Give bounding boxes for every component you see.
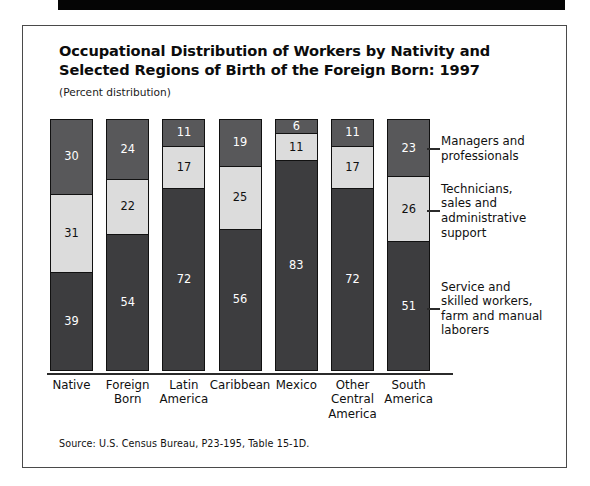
bar-value-label: 11 xyxy=(289,142,304,153)
bar-other-central-america[interactable]: 111772 xyxy=(331,119,374,373)
bar-segment[interactable]: 26 xyxy=(387,176,430,242)
legend-text-line: Technicians, xyxy=(441,182,571,197)
legend-text-line: professionals xyxy=(441,149,571,164)
legend-text-line: administrative xyxy=(441,211,571,226)
figure-frame: Occupational Distribution of Workers by … xyxy=(22,25,567,468)
top-black-rule xyxy=(58,0,565,10)
bar-value-label: 56 xyxy=(233,294,248,305)
bar-latin-america[interactable]: 111772 xyxy=(162,119,205,373)
bar-caribbean[interactable]: 192556 xyxy=(219,119,262,373)
bar-value-label: 17 xyxy=(345,162,360,173)
x-axis-label-line: America xyxy=(141,392,227,406)
bar-value-label: 54 xyxy=(120,297,135,308)
bar-value-label: 17 xyxy=(177,162,192,173)
bar-value-label: 51 xyxy=(401,301,416,312)
legend-leader-line xyxy=(427,210,440,211)
bar-segment[interactable]: 31 xyxy=(50,194,93,273)
source-note: Source: U.S. Census Bureau, P23-195, Tab… xyxy=(59,438,310,449)
bar-segment[interactable]: 17 xyxy=(162,146,205,189)
bar-value-label: 83 xyxy=(289,260,304,271)
legend-leader-line xyxy=(427,148,440,149)
legend-text-line: farm and manual xyxy=(441,309,571,324)
x-axis-label-line: America xyxy=(310,407,396,421)
bar-segment[interactable]: 72 xyxy=(162,188,205,371)
bar-mexico[interactable]: 61183 xyxy=(275,119,318,373)
legend-entry-technicians[interactable]: Technicians,sales andadministrativesuppo… xyxy=(441,182,571,241)
bar-segment[interactable]: 11 xyxy=(162,119,205,147)
bar-value-label: 72 xyxy=(345,274,360,285)
bar-segment[interactable]: 72 xyxy=(331,188,374,371)
x-axis-label-south-america: SouthAmerica xyxy=(366,378,452,407)
bar-segment[interactable]: 24 xyxy=(106,119,149,180)
bar-value-label: 30 xyxy=(64,151,79,162)
bar-value-label: 24 xyxy=(120,144,135,155)
bar-segment[interactable]: 25 xyxy=(219,166,262,230)
bar-segment[interactable]: 11 xyxy=(275,133,318,161)
legend-text-line: Service and xyxy=(441,280,571,295)
bar-segment[interactable]: 6 xyxy=(275,119,318,134)
bar-value-label: 11 xyxy=(345,127,360,138)
bar-segment[interactable]: 17 xyxy=(331,146,374,189)
legend-entry-managers-and-professionals[interactable]: Managers andprofessionals xyxy=(441,134,571,163)
bar-segment[interactable]: 51 xyxy=(387,241,430,371)
bar-value-label: 23 xyxy=(401,143,416,154)
bar-segment[interactable]: 39 xyxy=(50,272,93,371)
bar-segment[interactable]: 56 xyxy=(219,229,262,371)
bar-value-label: 6 xyxy=(293,121,300,132)
legend-leader-line xyxy=(427,308,440,309)
bar-value-label: 19 xyxy=(233,137,248,148)
legend-text-line: skilled workers, xyxy=(441,294,571,309)
bar-segment[interactable]: 22 xyxy=(106,179,149,235)
bar-segment[interactable]: 11 xyxy=(331,119,374,147)
bar-value-label: 25 xyxy=(233,192,248,203)
bar-value-label: 72 xyxy=(177,274,192,285)
bar-segment[interactable]: 30 xyxy=(50,119,93,195)
x-axis-label-line: South xyxy=(366,378,452,392)
bar-value-label: 39 xyxy=(64,316,79,327)
bar-native[interactable]: 303139 xyxy=(50,119,93,373)
bar-value-label: 11 xyxy=(177,127,192,138)
bar-value-label: 22 xyxy=(120,201,135,212)
bar-value-label: 26 xyxy=(401,204,416,215)
axis-baseline xyxy=(47,373,453,375)
bar-segment[interactable]: 23 xyxy=(387,119,430,177)
stacked-bar-chart: 3031392422541117721925566118311177223265… xyxy=(23,26,568,469)
legend-text-line: Managers and xyxy=(441,134,571,149)
bar-value-label: 31 xyxy=(64,228,79,239)
legend-text-line: sales and xyxy=(441,196,571,211)
bar-segment[interactable]: 83 xyxy=(275,160,318,371)
bar-foreign-born[interactable]: 242254 xyxy=(106,119,149,373)
bar-segment[interactable]: 19 xyxy=(219,119,262,167)
bar-segment[interactable]: 54 xyxy=(106,234,149,371)
legend-text-line: support xyxy=(441,226,571,241)
bar-south-america[interactable]: 232651 xyxy=(387,119,430,373)
x-axis-label-line: America xyxy=(366,392,452,406)
legend-text-line: laborers xyxy=(441,323,571,338)
legend-entry-service-and-skilled-workers[interactable]: Service andskilled workers,farm and manu… xyxy=(441,280,571,339)
